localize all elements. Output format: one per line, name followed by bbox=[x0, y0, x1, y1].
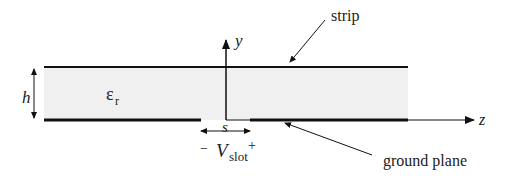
slot-plus-label: + bbox=[248, 138, 256, 153]
ground-plane-label: ground plane bbox=[383, 152, 467, 170]
strip-label: strip bbox=[331, 7, 359, 25]
ground-plane-leader-arrow bbox=[285, 123, 372, 155]
slot-width-label: s bbox=[222, 119, 228, 135]
strip-leader-arrow bbox=[290, 20, 325, 62]
permittivity-label: ε bbox=[106, 84, 114, 104]
height-label: h bbox=[22, 88, 31, 107]
permittivity-subscript: r bbox=[115, 94, 119, 108]
z-axis-label: z bbox=[478, 111, 486, 128]
slot-minus-label: − bbox=[200, 141, 208, 156]
y-axis-label: y bbox=[233, 31, 243, 50]
slot-voltage-label: V bbox=[216, 140, 230, 161]
slot-voltage-subscript: slot bbox=[229, 149, 248, 164]
slot-microstrip-diagram: strip ground plane h ε r y z s − V slot … bbox=[0, 0, 508, 180]
